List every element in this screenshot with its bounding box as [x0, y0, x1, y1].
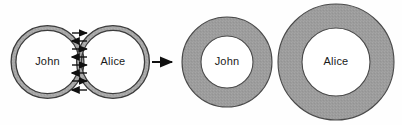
before-circle-alice	[77, 26, 150, 99]
after-circle-john	[182, 17, 272, 107]
after-circle-alice	[278, 4, 394, 120]
diagram-vector-layer	[0, 0, 402, 125]
diagram-canvas: John Alice John Alice	[0, 0, 402, 125]
before-state-group	[11, 26, 149, 99]
before-circle-john	[11, 26, 84, 99]
after-state-group	[182, 4, 394, 120]
